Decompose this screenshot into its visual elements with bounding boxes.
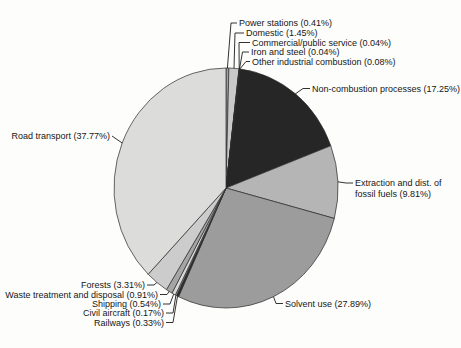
slice-label-civil-aircraft: Civil aircraft (0.17%) [83, 308, 164, 318]
leader-line-waste-treatment-and-disposal [160, 291, 169, 294]
slice-label-extraction-and-dist-of-fossil-fuels: Extraction and dist. offossil fuels (9.8… [355, 178, 442, 199]
slice-label-solvent-use: Solvent use (27.89%) [285, 299, 371, 309]
leader-line-power-stations [227, 23, 237, 68]
slice-label-waste-treatment-and-disposal: Waste treatment and disposal (0.91%) [5, 290, 158, 300]
slice-label-domestic: Domestic (1.45%) [246, 28, 318, 38]
slice-label-forests: Forests (3.31%) [81, 280, 145, 290]
slice-label-other-industrial-combustion: Other industrial combustion (0.08%) [252, 57, 396, 67]
leader-line-road-transport [112, 136, 122, 143]
pie-chart-figure: Power stations (0.41%)Domestic (1.45%)Co… [0, 0, 461, 348]
leader-line-extraction-and-dist-of-fossil-fuels [338, 182, 353, 183]
slice-label-shipping: Shipping (0.54%) [92, 299, 161, 309]
slice-label-non-combustion-processes: Non-combustion processes (17.25%) [312, 84, 460, 94]
leader-line-iron-and-steel [240, 52, 250, 69]
leader-line-non-combustion-processes [295, 89, 310, 94]
slice-label-road-transport: Road transport (37.77%) [11, 131, 110, 141]
leader-line-forests [147, 283, 157, 286]
slice-label-railways: Railways (0.33%) [94, 318, 164, 328]
slice-label-iron-and-steel: Iron and steel (0.04%) [251, 47, 340, 57]
slice-label-power-stations: Power stations (0.41%) [239, 18, 332, 28]
chart-canvas: Power stations (0.41%)Domestic (1.45%)Co… [0, 0, 461, 348]
leader-line-solvent-use [274, 297, 284, 304]
slice-label-commercial-public-service: Commercial/public service (0.04%) [252, 38, 391, 48]
leader-line-shipping [163, 294, 174, 304]
leader-line-other-industrial-combustion [240, 62, 250, 69]
